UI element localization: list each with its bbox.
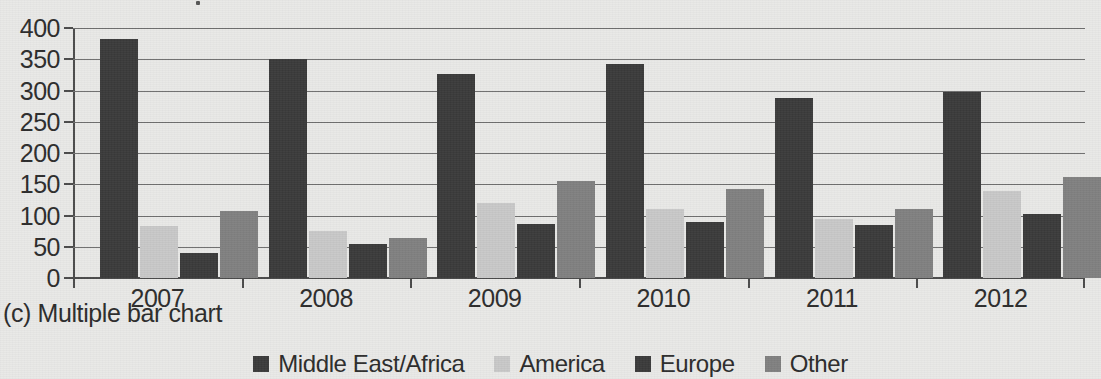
- legend-label: Europe: [660, 350, 735, 378]
- legend-swatch-icon: [253, 356, 269, 372]
- legend-label: Middle East/Africa: [278, 350, 464, 378]
- bar: [437, 74, 475, 278]
- bar: [726, 189, 764, 278]
- y-axis-tick-label: 0: [47, 264, 60, 293]
- bar: [1023, 214, 1061, 278]
- bar: [983, 191, 1021, 278]
- y-axis-tick-label: 250: [20, 107, 60, 136]
- bar: [309, 231, 347, 278]
- bar: [180, 253, 218, 278]
- y-axis-tick: [64, 90, 73, 92]
- y-axis-tick-label: 300: [20, 76, 60, 105]
- x-axis-tick: [916, 278, 918, 288]
- bar: [775, 98, 813, 278]
- y-axis-tick-label: 400: [20, 14, 60, 43]
- x-axis-tick: [1083, 278, 1085, 288]
- bar: [895, 209, 933, 278]
- bar: [1063, 177, 1101, 278]
- x-axis-tick: [73, 278, 75, 288]
- legend-label: Other: [790, 350, 848, 378]
- legend-label: America: [519, 350, 604, 378]
- bar: [477, 203, 515, 278]
- legend-item: Europe: [635, 350, 735, 378]
- x-axis-tick: [410, 278, 412, 288]
- bar: [220, 211, 258, 279]
- bar: [646, 209, 684, 278]
- legend-item: Middle East/Africa: [253, 350, 464, 378]
- y-axis-tick: [64, 246, 73, 248]
- x-axis-tick-label: 2009: [468, 284, 522, 313]
- bar: [517, 224, 555, 278]
- x-axis-tick-label: 2008: [299, 284, 353, 313]
- x-axis-tick-label: 2010: [637, 284, 691, 313]
- y-axis-tick: [64, 183, 73, 185]
- bar: [349, 244, 387, 278]
- bar: [100, 39, 138, 278]
- x-axis-tick: [748, 278, 750, 288]
- bar: [815, 219, 853, 278]
- bar: [140, 226, 178, 278]
- legend-swatch-icon: [765, 356, 781, 372]
- y-axis-tick-label: 50: [33, 232, 60, 261]
- legend-swatch-icon: [635, 356, 651, 372]
- y-axis-tick: [64, 58, 73, 60]
- y-axis-tick-label: 150: [20, 170, 60, 199]
- bar: [686, 222, 724, 278]
- bars-group: [73, 28, 1085, 278]
- bar: [943, 92, 981, 278]
- chart-legend: Middle East/AfricaAmericaEuropeOther: [0, 350, 1101, 378]
- y-axis-tick: [64, 121, 73, 123]
- x-axis-tick-label: 2012: [974, 284, 1028, 313]
- x-axis-tick-label: 2011: [806, 284, 858, 313]
- x-axis-tick: [242, 278, 244, 288]
- y-axis-tick: [64, 215, 73, 217]
- y-axis-tick-label: 200: [20, 139, 60, 168]
- legend-swatch-icon: [494, 356, 510, 372]
- bar: [557, 181, 595, 278]
- y-axis-tick-label: 350: [20, 45, 60, 74]
- bar: [855, 225, 893, 278]
- title-remnant-dot: [196, 1, 200, 5]
- figure-caption: (c) Multiple bar chart: [3, 299, 222, 328]
- y-axis-tick-label: 100: [20, 201, 60, 230]
- bar: [606, 64, 644, 278]
- plot-area: 050100150200250300350400 200720082009201…: [73, 28, 1085, 278]
- x-axis-tick: [579, 278, 581, 288]
- bar: [269, 59, 307, 278]
- bar: [389, 238, 427, 278]
- legend-item: America: [494, 350, 604, 378]
- y-axis-tick: [64, 27, 73, 29]
- y-axis-tick: [64, 277, 73, 279]
- y-axis-tick: [64, 152, 73, 154]
- chart-figure: 050100150200250300350400 200720082009201…: [0, 0, 1101, 379]
- legend-item: Other: [765, 350, 848, 378]
